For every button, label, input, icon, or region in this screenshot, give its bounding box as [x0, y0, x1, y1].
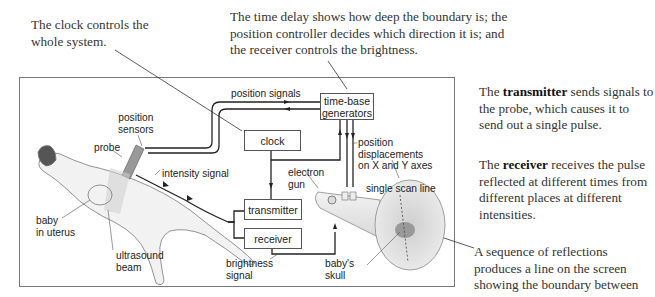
time-base-generators-box: time-base generators	[320, 93, 374, 120]
position-sensors-label: position sensors	[118, 112, 154, 135]
probe-label: probe	[94, 142, 120, 154]
brightness-signal-label: brightness signal	[226, 258, 273, 281]
intensity-signal-label: intensity signal	[162, 168, 229, 180]
receiver-box: receiver	[244, 228, 302, 249]
position-displacements-label: position displacements on X and Y axes	[358, 137, 432, 172]
baby-in-uterus-label: baby in uterus	[36, 215, 75, 238]
transmitter-box: transmitter	[244, 199, 302, 220]
time-delay-leader-line	[328, 61, 347, 89]
clock-box: clock	[244, 130, 301, 151]
single-scan-line-label: single scan line	[366, 183, 436, 195]
position-signals-label: position signals	[231, 88, 301, 100]
ultrasound-beam-label: ultrasound beam	[116, 250, 164, 273]
electron-gun-label: electron gun	[288, 167, 324, 190]
babys-skull-label: baby's skull	[325, 258, 354, 281]
